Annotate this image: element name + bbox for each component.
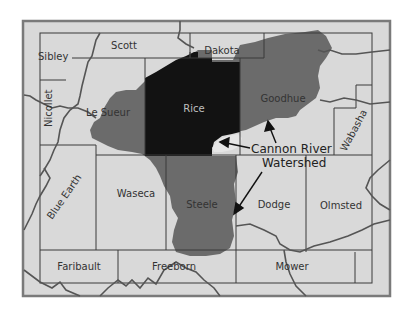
watershed-map: Scott Sibley Dakota Nicollet Le Sueur Ri… [0, 0, 408, 313]
label-scott: Scott [111, 40, 137, 51]
label-olmsted: Olmsted [320, 200, 362, 211]
label-dakota: Dakota [204, 45, 239, 56]
label-le-sueur: Le Sueur [86, 107, 131, 118]
label-dodge: Dodge [258, 199, 291, 210]
label-rice: Rice [183, 103, 204, 114]
label-faribault: Faribault [57, 261, 100, 272]
label-steele: Steele [186, 199, 218, 210]
annotation-line2: Watershed [262, 156, 326, 170]
annotation-line1: Cannon River [251, 142, 332, 156]
label-mower: Mower [275, 261, 309, 272]
label-nicollet: Nicollet [43, 89, 54, 127]
label-sibley: Sibley [38, 51, 68, 62]
map-canvas: Scott Sibley Dakota Nicollet Le Sueur Ri… [0, 0, 408, 313]
label-goodhue: Goodhue [260, 93, 305, 104]
label-waseca: Waseca [117, 188, 155, 199]
label-freeborn: Freeborn [152, 261, 196, 272]
